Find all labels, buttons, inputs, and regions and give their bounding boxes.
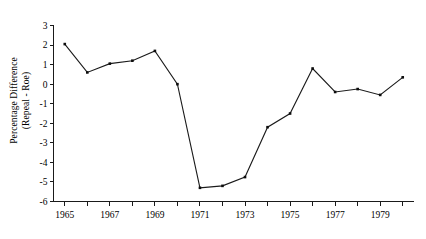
data-point-marker bbox=[154, 50, 157, 53]
x-tick-label: 1977 bbox=[326, 210, 345, 220]
data-point-marker bbox=[109, 62, 112, 65]
data-point-marker bbox=[356, 88, 359, 91]
chart-container: Percentage Difference (Repeal - Roe) 321… bbox=[0, 0, 426, 239]
y-tick-label: -5 bbox=[40, 177, 48, 187]
data-point-marker bbox=[86, 71, 89, 74]
data-series-repeal-minus-roe bbox=[63, 43, 404, 189]
data-point-marker bbox=[311, 67, 314, 70]
x-tick-label: 1973 bbox=[236, 210, 255, 220]
x-tick-label: 1967 bbox=[100, 210, 119, 220]
data-point-marker bbox=[176, 83, 179, 86]
data-point-marker bbox=[334, 91, 337, 94]
y-tick-label: -4 bbox=[40, 158, 48, 168]
data-point-marker bbox=[63, 43, 66, 46]
x-axis-tick-labels: 19651967196919711973197519771979 bbox=[55, 210, 390, 220]
data-point-marker bbox=[289, 112, 292, 115]
data-point-marker bbox=[266, 126, 269, 129]
data-point-marker bbox=[131, 59, 134, 62]
x-tick-label: 1965 bbox=[55, 210, 74, 220]
plot-axes bbox=[54, 26, 415, 202]
data-point-marker bbox=[244, 176, 247, 179]
series-line-path bbox=[65, 44, 403, 188]
y-tick-label: 0 bbox=[43, 80, 48, 90]
y-tick-label: -2 bbox=[40, 119, 48, 129]
y-tick-label: 1 bbox=[43, 60, 48, 70]
x-tick-label: 1979 bbox=[371, 210, 390, 220]
data-point-marker bbox=[379, 94, 382, 97]
y-tick-label: -3 bbox=[40, 138, 48, 148]
y-tick-label: 2 bbox=[43, 40, 48, 50]
x-tick-label: 1975 bbox=[281, 210, 300, 220]
y-axis-tick-labels: 3210-1-2-3-4-5-6 bbox=[40, 21, 48, 207]
data-point-marker bbox=[401, 76, 404, 79]
y-tick-label: -6 bbox=[40, 197, 48, 207]
y-tick-label: -1 bbox=[40, 99, 48, 109]
y-tick-label: 3 bbox=[43, 21, 48, 31]
x-tick-label: 1969 bbox=[145, 210, 164, 220]
data-point-marker bbox=[199, 187, 202, 190]
data-point-marker bbox=[221, 185, 224, 188]
x-axis-tick-marks bbox=[65, 202, 403, 206]
series-markers bbox=[63, 43, 404, 189]
x-tick-label: 1971 bbox=[190, 210, 209, 220]
line-chart-plot: 3210-1-2-3-4-5-6 19651967196919711973197… bbox=[0, 0, 426, 239]
